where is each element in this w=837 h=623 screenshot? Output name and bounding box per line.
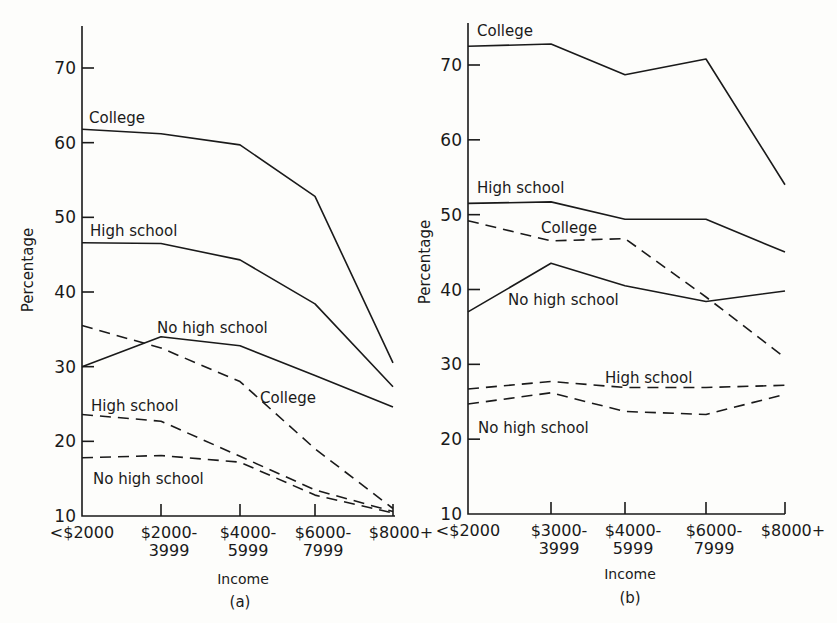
- y-tick-label: 40: [54, 282, 76, 302]
- y-tick-label: 30: [54, 357, 76, 377]
- x-axis-title: Income: [217, 571, 269, 587]
- y-axis-title: Percentage: [19, 228, 37, 312]
- x-tick-label-line2: 3999: [149, 541, 190, 560]
- y-tick-label: 30: [440, 354, 462, 374]
- x-tick-label: $6000-: [295, 523, 352, 542]
- x-tick-label: $4000-: [605, 521, 662, 540]
- series-label: High school: [605, 369, 692, 387]
- series-line-college-solid: [468, 44, 785, 185]
- y-tick-label: 50: [54, 207, 76, 227]
- y-tick-label: 60: [440, 130, 462, 150]
- y-tick-label: 70: [440, 55, 462, 75]
- series-label: High school: [90, 222, 177, 240]
- chart-panel-b: 10203040506070<$2000$3000-3999$4000-5999…: [416, 22, 825, 607]
- x-tick-label: <$2000: [50, 523, 114, 542]
- series-label: College: [541, 219, 597, 237]
- y-tick-label: 50: [440, 205, 462, 225]
- x-tick-label: $4000-: [220, 523, 277, 542]
- series-label: College: [89, 109, 145, 127]
- y-tick-label: 20: [440, 429, 462, 449]
- x-tick-label: $3000-: [531, 521, 588, 540]
- x-tick-label-line2: 5999: [228, 541, 269, 560]
- x-tick-label-line2: 3999: [539, 539, 580, 558]
- y-axis-title: Percentage: [416, 220, 434, 304]
- x-tick-label-line2: 7999: [303, 541, 344, 560]
- x-tick-label: $8000+: [761, 521, 825, 540]
- series-label: High school: [477, 179, 564, 197]
- panel-caption: (b): [619, 589, 640, 607]
- x-tick-label: $6000-: [686, 521, 743, 540]
- x-tick-label-line2: 7999: [694, 539, 735, 558]
- chart-panel-a: 10203040506070<$2000$2000-3999$4000-5999…: [19, 26, 433, 611]
- x-tick-label: $8000+: [369, 523, 433, 542]
- x-tick-label-line2: 5999: [613, 539, 654, 558]
- series-line-college-dashed: [468, 221, 785, 358]
- y-tick-label: 60: [54, 133, 76, 153]
- axis-lines: [82, 26, 395, 516]
- series-label: No high school: [508, 291, 619, 309]
- series-line-no-high-school-dashed: [468, 393, 785, 415]
- x-axis-title: Income: [604, 566, 656, 582]
- series-label: No high school: [478, 419, 589, 437]
- x-tick-label: $2000-: [141, 523, 198, 542]
- series-line-high-school-solid: [468, 202, 785, 252]
- series-label: College: [260, 389, 316, 407]
- series-line-high-school-dashed: [82, 415, 393, 512]
- series-label: College: [477, 22, 533, 40]
- series-label: No high school: [157, 319, 268, 337]
- y-tick-label: 70: [54, 58, 76, 78]
- axis-lines: [468, 23, 785, 514]
- series-label: No high school: [93, 470, 204, 488]
- x-tick-label: <$2000: [436, 521, 500, 540]
- series-label: High school: [91, 397, 178, 415]
- figure-canvas: 10203040506070<$2000$2000-3999$4000-5999…: [0, 0, 837, 623]
- panel-caption: (a): [230, 593, 251, 611]
- y-tick-label: 20: [54, 431, 76, 451]
- y-tick-label: 40: [440, 280, 462, 300]
